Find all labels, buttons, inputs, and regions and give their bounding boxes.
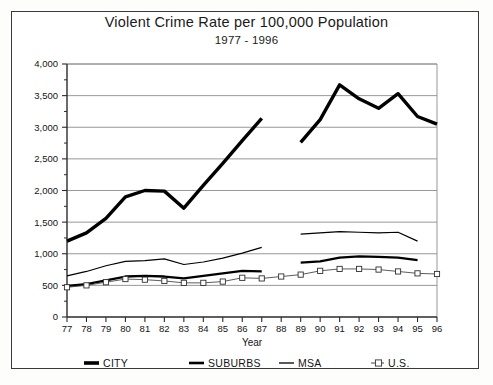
series-marker-us [84,283,89,288]
series-marker-us [220,279,225,284]
series-marker-us [201,280,206,285]
series-marker-us [162,278,167,283]
x-axis-tick-label: 83 [179,323,190,334]
series-marker-us [142,277,147,282]
chart-figure: Violent Crime Rate per 100,000 Populatio… [0,0,493,385]
y-axis-tick-labels: 05001,0001,5002,0002,5003,0003,5004,000 [34,58,58,322]
x-axis-tick-label: 87 [256,323,267,334]
series-marker-us [123,276,128,281]
x-axis-tick-label: 81 [140,323,151,334]
series-marker-us [240,275,245,280]
x-axis-tick-label: 80 [120,323,131,334]
series-line-msa [301,232,418,241]
x-axis-tick-label: 94 [393,323,404,334]
legend-label-us: U.S. [388,357,410,369]
y-axis-tick-label: 4,000 [34,58,58,69]
series-marker-us [103,280,108,285]
x-axis-tick-label: 92 [354,323,365,334]
series-marker-us [415,271,420,276]
series-line-city [67,118,262,241]
x-axis-tick-label: 78 [81,323,92,334]
series-marker-us [376,267,381,272]
y-axis-tick-label: 1,500 [34,217,58,228]
legend-label-suburbs: SUBURBS [208,357,261,369]
series-marker-us [298,272,303,277]
axis-group [62,64,437,322]
y-axis-tick-label: 3,500 [34,90,58,101]
series-marker-us [64,285,69,290]
line-chart-plot: 05001,0001,5002,0002,5003,0003,5004,000 … [0,0,493,385]
y-axis-tick-label: 3,000 [34,122,58,133]
x-axis-tick-label: 95 [412,323,423,334]
series-marker-us [318,268,323,273]
data-series-group [64,85,439,290]
y-axis-tick-label: 1,000 [34,248,58,259]
series-marker-us [181,280,186,285]
chart-legend: CITYSUBURBSMSAU.S. [84,357,410,369]
x-axis-title: Year [242,337,263,348]
series-line-city [301,85,437,143]
legend-label-city: CITY [103,357,128,369]
y-axis-tick-label: 2,000 [34,185,58,196]
x-axis-tick-label: 88 [276,323,287,334]
series-marker-us [337,266,342,271]
legend-label-msa: MSA [298,357,322,369]
x-axis-tick-label: 90 [315,323,326,334]
x-axis-tick-labels: 7778798081828384858687888990919293949596 [62,323,443,334]
x-axis-tick-label: 91 [334,323,345,334]
legend-marker-us [375,360,381,366]
x-axis-tick-label: 96 [432,323,443,334]
x-axis-tick-label: 84 [198,323,209,334]
series-marker-us [279,274,284,279]
x-axis-tick-label: 85 [218,323,229,334]
y-axis-tick-label: 0 [53,311,58,322]
x-axis-tick-label: 82 [159,323,170,334]
x-axis-tick-label: 79 [101,323,112,334]
x-axis-tick-label: 77 [62,323,73,334]
x-axis-tick-label: 89 [295,323,306,334]
x-axis-title-group: Year [242,337,263,348]
series-marker-us [357,266,362,271]
series-marker-us [395,269,400,274]
series-line-suburbs [301,256,418,262]
x-axis-tick-label: 93 [373,323,384,334]
series-marker-us [434,271,439,276]
y-axis-tick-label: 500 [42,280,58,291]
y-axis-tick-label: 2,500 [34,153,58,164]
x-axis-tick-label: 86 [237,323,248,334]
series-marker-us [259,276,264,281]
